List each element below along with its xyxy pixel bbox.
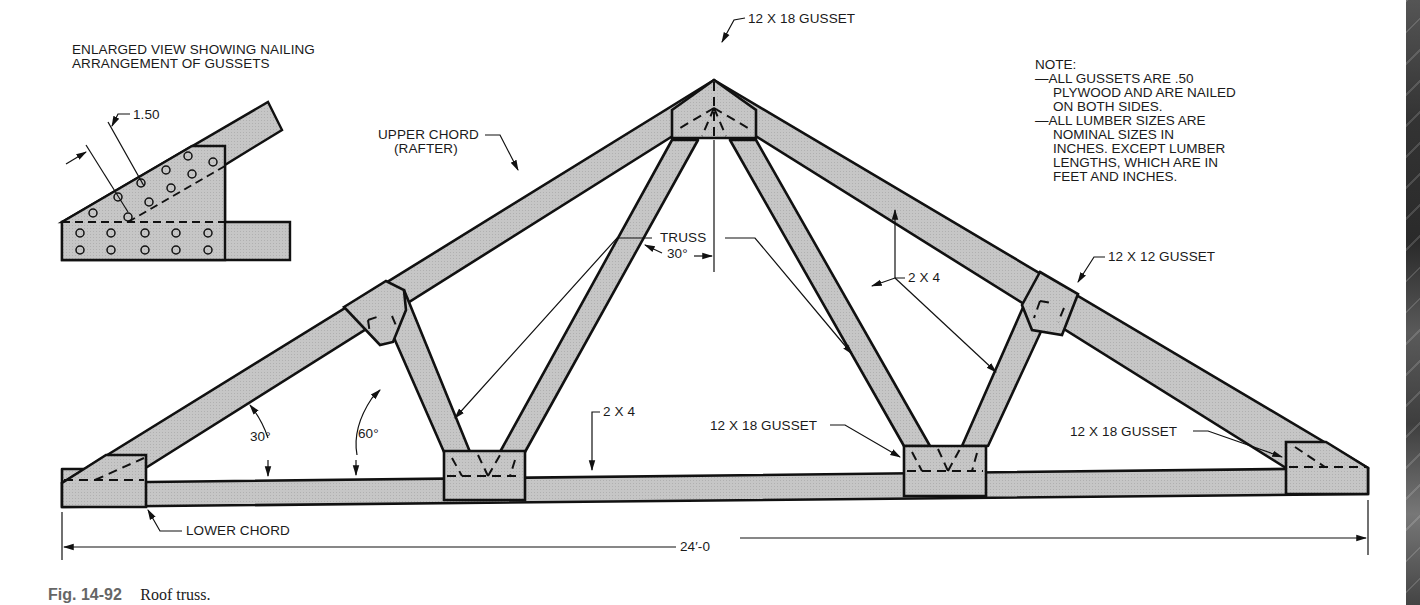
- figure-number: Fig. 14-92: [48, 586, 122, 603]
- upper-chord-label-line1: UPPER CHORD: [378, 128, 479, 142]
- note-line: LENGTHS, WHICH ARE IN: [1035, 156, 1236, 170]
- note-line: PLYWOOD AND ARE NAILED: [1035, 86, 1236, 100]
- note-line: NOMINAL SIZES IN: [1035, 128, 1236, 142]
- note-heading: NOTE:: [1035, 58, 1236, 72]
- web-size-label: 2 X 4: [908, 271, 940, 285]
- figure-caption: Fig. 14-92 Roof truss.: [48, 586, 211, 604]
- left-long-web: [500, 140, 698, 452]
- web-angle-60-label: 60°: [358, 427, 379, 441]
- web-angle-30-label: 30°: [667, 247, 688, 261]
- right-heel-gusset-label: 12 X 18 GUSSET: [1070, 425, 1177, 439]
- enlarged-view-title-line2: ARRANGEMENT OF GUSSETS: [72, 57, 270, 71]
- enlarged-view-dimension: 1.50: [133, 108, 160, 122]
- center-right-gusset-label: 12 X 18 GUSSET: [710, 419, 817, 433]
- right-web-gusset-label: 12 X 12 GUSSET: [1108, 250, 1215, 264]
- span-dimension-label: 24′-0: [680, 540, 710, 554]
- note-line: FEET AND INCHES.: [1035, 170, 1236, 184]
- lower-chord-size-label: 2 X 4: [603, 405, 635, 419]
- note-block: NOTE: —ALL GUSSETS ARE .50 PLYWOOD AND A…: [1035, 58, 1236, 184]
- note-line: —ALL GUSSETS ARE .50: [1035, 72, 1236, 86]
- roof-truss-figure: ENLARGED VIEW SHOWING NAILING ARRANGEMEN…: [0, 0, 1420, 605]
- lower-chord-label: LOWER CHORD: [186, 524, 290, 538]
- note-line: ON BOTH SIDES.: [1035, 100, 1236, 114]
- upper-chord-label-line2: (RAFTER): [394, 142, 458, 156]
- left-heel-gusset: [62, 455, 146, 507]
- lower-chord: [62, 468, 1368, 507]
- note-line: —ALL LUMBER SIZES ARE: [1035, 114, 1236, 128]
- note-line: INCHES. EXCEPT LUMBER: [1035, 142, 1236, 156]
- right-long-web: [730, 140, 930, 446]
- page-edge-image-strip: [1406, 0, 1420, 605]
- figure-title: Roof truss.: [140, 586, 210, 603]
- truss-label: TRUSS: [660, 231, 706, 245]
- heel-angle-30-label: 30°: [250, 430, 271, 444]
- enlarged-view-title-line1: ENLARGED VIEW SHOWING NAILING: [72, 43, 315, 57]
- peak-gusset-label: 12 X 18 GUSSET: [748, 12, 855, 26]
- enlarged-view-detail: [62, 102, 290, 260]
